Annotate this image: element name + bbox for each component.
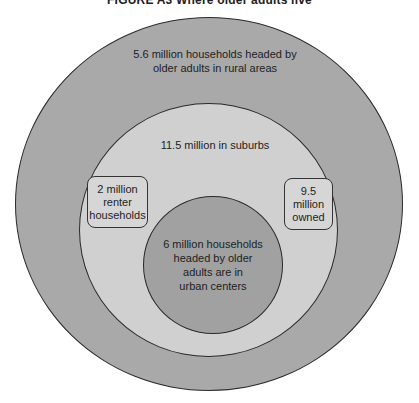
urban-line2: headed by older: [148, 251, 278, 265]
owned-households-box: 9.5 million owned: [284, 178, 333, 230]
owned-line3: owned: [292, 211, 324, 224]
urban-label: 6 million households headed by older adu…: [148, 237, 278, 293]
renter-households-box: 2 million renter households: [87, 176, 148, 228]
figure-title: FIGURE A3 Where older adults live: [0, 0, 419, 7]
urban-line1: 6 million households: [148, 237, 278, 251]
renter-line2: renter: [89, 196, 145, 209]
rural-label-line2: older adults in rural areas: [110, 61, 320, 75]
urban-line3: adults are in: [148, 265, 278, 279]
rural-label: 5.6 million households headed by older a…: [110, 47, 320, 75]
renter-line3: households: [89, 209, 145, 222]
urban-line4: urban centers: [148, 279, 278, 293]
suburbs-label: 11.5 million in suburbs: [140, 138, 290, 152]
renter-line1: 2 million: [89, 183, 145, 196]
rural-label-line1: 5.6 million households headed by: [110, 47, 320, 61]
owned-line2: million: [292, 198, 324, 211]
owned-line1: 9.5: [292, 185, 324, 198]
